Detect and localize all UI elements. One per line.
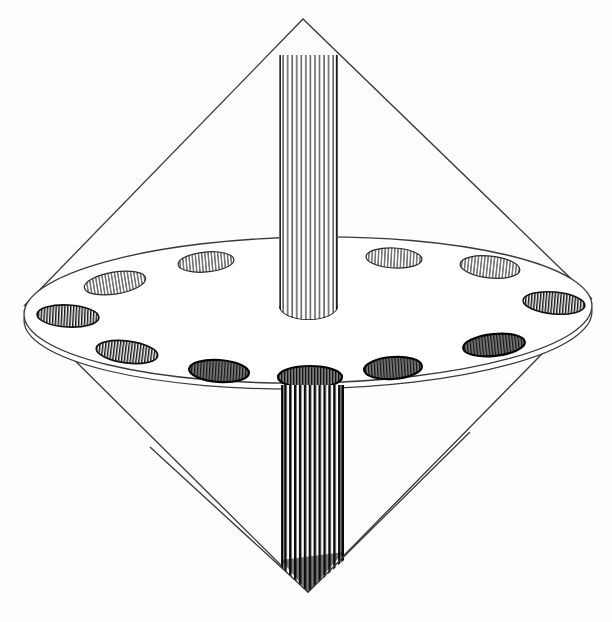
figure-root (0, 0, 612, 622)
perforated-disc-diagram (0, 0, 612, 622)
lower-spindle (281, 385, 344, 595)
upper-spindle-front-segment (279, 236, 338, 320)
hole-front-center (278, 366, 342, 388)
